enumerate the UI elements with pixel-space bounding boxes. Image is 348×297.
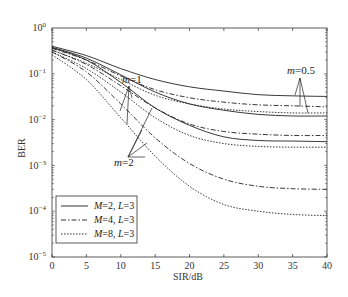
x-tick-labels: 0510152025303540 bbox=[50, 260, 333, 271]
x-tick-0: 0 bbox=[50, 260, 55, 271]
x-axis-label: SIR/dB bbox=[173, 271, 203, 282]
x-tick-15: 15 bbox=[150, 260, 160, 271]
legend-item-1: M=4, L=3 bbox=[93, 214, 134, 225]
legend-item-2: M=8, L=3 bbox=[93, 228, 134, 239]
y-tick-3: 10−3 bbox=[29, 159, 47, 171]
y-tick-5: 10−5 bbox=[29, 250, 47, 262]
x-tick-40: 40 bbox=[322, 260, 332, 271]
curve-1 bbox=[52, 48, 327, 107]
x-tick-25: 25 bbox=[219, 260, 229, 271]
curve-0 bbox=[52, 46, 327, 96]
curve-6 bbox=[52, 48, 327, 142]
y-tick-2: 10−2 bbox=[29, 113, 47, 125]
x-tick-10: 10 bbox=[116, 260, 126, 271]
x-tick-35: 35 bbox=[288, 260, 298, 271]
x-tick-5: 5 bbox=[84, 260, 89, 271]
legend-item-0: M=2, L=3 bbox=[93, 200, 134, 211]
annotation-m2: m=2 bbox=[114, 156, 134, 168]
x-tick-20: 20 bbox=[185, 260, 195, 271]
data-curves bbox=[52, 46, 327, 215]
annotation-m05: m=0.5 bbox=[287, 64, 315, 76]
y-tick-labels: 100 10−1 10−2 10−3 10−4 10−5 bbox=[29, 21, 47, 262]
curve-5 bbox=[52, 52, 327, 147]
annotation-m1: m=1 bbox=[122, 73, 142, 85]
ber-vs-sir-chart: m=1m=0.5m=2 100 10−1 10−2 10−3 10−4 10−5… bbox=[0, 0, 348, 297]
y-tick-1: 10−1 bbox=[29, 67, 47, 79]
legend: M=2, L=3 M=4, L=3 M=8, L=3 bbox=[56, 196, 137, 243]
y-axis-label: BER bbox=[16, 138, 27, 158]
y-tick-0: 100 bbox=[33, 21, 47, 33]
x-tick-30: 30 bbox=[253, 260, 263, 271]
y-tick-4: 10−4 bbox=[29, 204, 47, 216]
